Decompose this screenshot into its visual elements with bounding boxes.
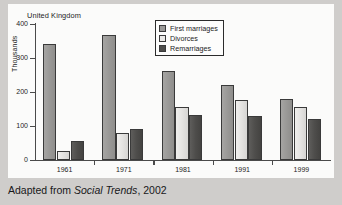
legend-swatch-icon — [159, 35, 166, 42]
bar-1991-remarriages — [248, 116, 261, 160]
bar-1961-first-marriages — [43, 44, 56, 160]
legend-swatch-icon — [159, 25, 166, 32]
x-axis-label-1981: 1981 — [153, 166, 212, 173]
bar-1991-divorces — [235, 100, 248, 160]
y-tick-label: 200 — [16, 88, 28, 95]
y-tick-label: 100 — [16, 122, 28, 129]
bar-1981-remarriages — [189, 115, 202, 160]
y-axis-line — [35, 23, 36, 161]
y-tick-label: 0 — [24, 156, 28, 163]
x-group-separator-tick — [272, 161, 273, 165]
bar-1961-remarriages — [71, 141, 84, 160]
x-group-separator-tick — [153, 161, 154, 165]
y-tick: 400 — [30, 24, 35, 25]
x-axis-label-1991: 1991 — [213, 166, 272, 173]
bar-1961-divorces — [57, 151, 70, 160]
figure-caption: Adapted from Social Trends, 2002 — [8, 184, 167, 196]
legend-item-label: Divorces — [170, 34, 198, 43]
legend-swatch-icon — [159, 45, 166, 52]
x-axis-label-1999: 1999 — [272, 166, 331, 173]
caption-suffix: , 2002 — [137, 184, 166, 196]
bar-1981-divorces — [175, 107, 188, 160]
caption-prefix: Adapted from — [8, 184, 74, 196]
x-axis-label-1961: 1961 — [35, 166, 94, 173]
legend-item-label: First marriages — [170, 24, 218, 33]
x-group-separator-tick — [213, 161, 214, 165]
y-tick: 0 — [30, 160, 35, 161]
caption-source-title: Social Trends — [74, 184, 137, 196]
y-tick-label: 400 — [16, 20, 28, 27]
bar-chart: United Kingdom Thousands 0100200300400 1… — [0, 0, 342, 205]
legend-item-divorces[interactable]: Divorces — [159, 33, 218, 43]
x-axis-label-1971: 1971 — [94, 166, 153, 173]
legend-item-label: Remarriages — [170, 44, 211, 53]
bar-1971-first-marriages — [102, 35, 115, 160]
y-tick: 100 — [30, 126, 35, 127]
legend-item-remarriages[interactable]: Remarriages — [159, 43, 218, 53]
bar-1971-remarriages — [130, 129, 143, 160]
bar-1971-divorces — [116, 133, 129, 160]
x-group-separator-tick — [94, 161, 95, 165]
chart-legend: First marriagesDivorcesRemarriages — [155, 20, 224, 56]
page-title: United Kingdom — [27, 11, 81, 20]
bar-1999-remarriages — [308, 119, 321, 160]
y-tick-label: 300 — [16, 54, 28, 61]
bar-1991-first-marriages — [221, 85, 234, 160]
legend-item-first-marriages[interactable]: First marriages — [159, 23, 218, 33]
bar-1999-divorces — [294, 107, 307, 160]
y-tick: 200 — [30, 92, 35, 93]
bar-1981-first-marriages — [162, 71, 175, 160]
y-tick: 300 — [30, 58, 35, 59]
bar-1999-first-marriages — [280, 99, 293, 160]
page-background: United Kingdom Thousands 0100200300400 1… — [0, 0, 342, 205]
x-axis-line — [35, 160, 331, 161]
